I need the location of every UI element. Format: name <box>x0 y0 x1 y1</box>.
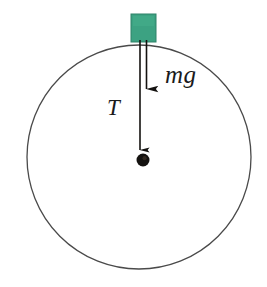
weight-force-label: mg <box>165 62 197 87</box>
mass-bob-icon <box>137 154 150 167</box>
green-block-highlight-icon <box>133 16 154 26</box>
tension-force-label: T <box>107 96 120 119</box>
figure-canvas <box>0 0 267 287</box>
mass-bob-sheen-icon <box>143 156 147 160</box>
physics-force-diagram: mg T <box>0 0 267 287</box>
